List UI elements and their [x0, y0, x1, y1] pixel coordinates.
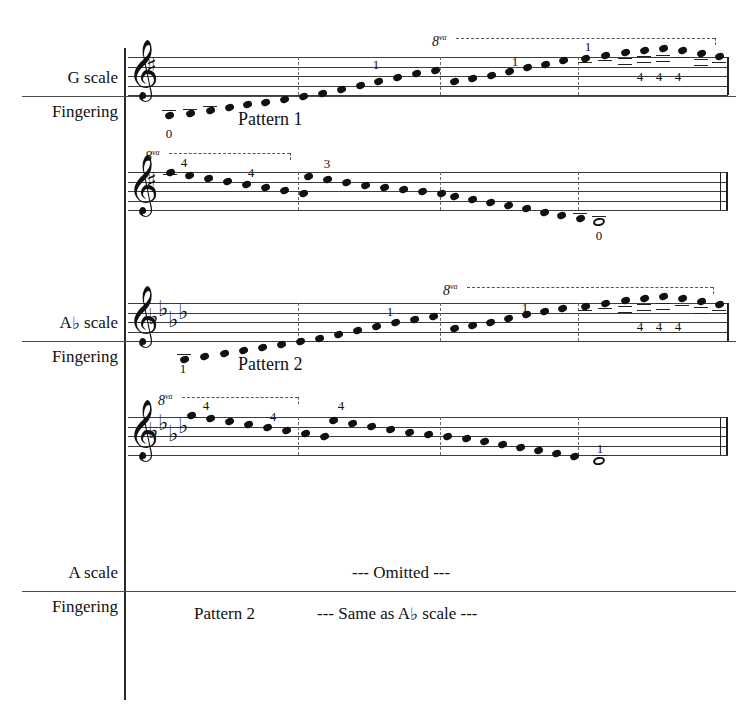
staff-line [128, 201, 728, 202]
label-a-fingering: Fingering [8, 597, 118, 617]
staff-line [128, 446, 728, 447]
note-head [222, 177, 233, 186]
fingering-digit: 4 [335, 399, 347, 412]
note-head [539, 208, 550, 217]
whole-note-head [592, 217, 605, 227]
ottava-dashed-line [169, 153, 290, 154]
ledger-line [675, 305, 689, 306]
fingering-digit: 4 [672, 320, 684, 333]
fingering-digit: 4 [200, 399, 212, 412]
note-head [497, 440, 508, 449]
note-head [442, 432, 453, 441]
staff-line [128, 455, 728, 456]
note-head [485, 318, 496, 327]
ottava-marking: 8va [145, 149, 292, 161]
note-head [485, 198, 496, 207]
same-as-prefix: --- Same as A [317, 604, 410, 623]
note-head [219, 349, 230, 358]
fingering-digit: 4 [178, 156, 190, 169]
label-a-scale: A scale [8, 563, 118, 583]
note-head [366, 422, 377, 431]
ledger-line [578, 310, 592, 311]
ledger-line [712, 310, 726, 311]
fingering-digit: 1 [384, 305, 396, 318]
note-head [417, 187, 428, 196]
staff-line [128, 210, 728, 211]
key-signature-flat-icon: ♭ [158, 298, 168, 320]
note-head [539, 307, 550, 316]
note-head [295, 337, 306, 346]
fingering-digit: 1 [594, 442, 606, 455]
note-head [352, 326, 363, 335]
staff-line [128, 182, 728, 183]
key-signature-flat-icon: ♭ [158, 412, 168, 434]
note-head [696, 297, 707, 306]
ledger-line [618, 306, 632, 307]
note-head [165, 168, 176, 177]
whole-note-head [592, 456, 605, 466]
a-scale-omitted-text: --- Omitted --- [352, 563, 450, 582]
note-head [556, 211, 567, 220]
staff-line [128, 313, 728, 314]
fingering-digit: 4 [245, 166, 257, 179]
note-head [569, 452, 580, 461]
note-head [515, 443, 526, 452]
barline [578, 172, 579, 210]
note-head [257, 343, 268, 352]
note-head [533, 446, 544, 455]
staff-line [128, 417, 728, 418]
same-as-suffix: scale --- [418, 604, 477, 623]
note-head [398, 185, 409, 194]
ottava-hook [713, 287, 714, 294]
note-head [467, 195, 478, 204]
label-ab-fingering: Fingering [8, 347, 118, 367]
note-head [205, 414, 216, 423]
barline [440, 417, 441, 455]
ledger-line [656, 309, 670, 310]
ledger-line [637, 310, 651, 311]
fingering-digit: 4 [653, 320, 665, 333]
staff-line [128, 427, 728, 428]
key-signature-sharp-icon: ♯ [146, 170, 157, 192]
ledger-line [637, 304, 651, 305]
note-head [503, 201, 514, 210]
note-head [341, 178, 352, 187]
staff-line [128, 191, 728, 192]
a-scale-same-as-text: --- Same as A♭ scale --- [317, 604, 477, 623]
fingering-digit: 1 [519, 301, 531, 314]
ledger-line [598, 308, 612, 309]
ledger-line [618, 312, 632, 313]
note-head [575, 214, 586, 223]
end-barline-thin [720, 417, 721, 455]
ottava-dashed-line [467, 287, 713, 288]
fingering-digit: 4 [267, 410, 279, 423]
note-head [186, 411, 197, 420]
end-barline [726, 172, 728, 210]
key-signature-flat-icon: ♭ [148, 306, 158, 328]
note-head [423, 430, 434, 439]
barline [440, 303, 441, 341]
fingering-digit: 4 [634, 320, 646, 333]
note-head [298, 189, 309, 198]
flat-icon: ♭ [410, 605, 418, 624]
staff-line [128, 341, 728, 342]
flat-icon: ♭ [72, 314, 80, 333]
fingering-digit: 3 [321, 157, 333, 170]
note-head [521, 204, 532, 213]
a-scale-pattern-2: Pattern 2 [194, 604, 255, 623]
ledger-line [656, 303, 670, 304]
label-ab-scale-prefix: A [59, 313, 71, 332]
ottava-hook [298, 397, 299, 404]
ottava-marking: 8va [443, 283, 715, 295]
note-head [436, 189, 447, 198]
barline [298, 417, 299, 455]
ottava-label: 8va [443, 280, 458, 298]
pattern-2-annotation: Pattern 2 [238, 355, 303, 374]
note-head [551, 449, 562, 458]
fingering-digit: 0 [593, 229, 605, 242]
key-signature-flat-icon: ♭ [178, 415, 188, 437]
key-signature-flat-icon: ♭ [168, 309, 178, 331]
end-barline [727, 303, 729, 341]
note-head [461, 434, 472, 443]
end-barline [726, 417, 728, 455]
